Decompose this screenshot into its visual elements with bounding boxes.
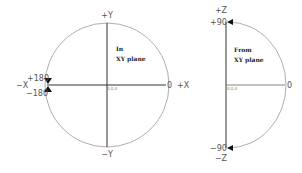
diagram-title-line2: XY plane bbox=[116, 55, 146, 63]
minus-z-label: −Z bbox=[215, 154, 228, 163]
origin-label: 0,0,0 bbox=[227, 86, 238, 91]
origin-label: 0,0,0 bbox=[107, 86, 118, 91]
diagram-title-line1: In bbox=[116, 45, 124, 52]
zero-angle-label: 0 bbox=[287, 81, 292, 90]
minus-y-label: −Y bbox=[101, 150, 113, 159]
minus-90-arrow-icon bbox=[227, 145, 233, 151]
xy-plane-diagram: +Y −Y −X +X 0 +180 −180 0,0,0 In XY plan… bbox=[16, 11, 190, 159]
plus-y-label: +Y bbox=[101, 11, 113, 20]
plus-x-label: +X bbox=[177, 81, 190, 90]
zero-angle-label: 0 bbox=[167, 81, 172, 90]
plus-90-arrow-icon bbox=[227, 19, 233, 25]
plus-90-label: +90 bbox=[210, 18, 227, 27]
diagram-title-line2: XY plane bbox=[234, 56, 264, 64]
minus-180-label: −180 bbox=[26, 89, 48, 98]
plus-z-label: +Z bbox=[215, 6, 228, 15]
angle-diagrams: +Y −Y −X +X 0 +180 −180 0,0,0 In XY plan… bbox=[0, 0, 302, 173]
minus-90-label: −90 bbox=[210, 144, 227, 153]
from-xy-plane-diagram: +Z +90 −90 −Z 0 0,0,0 From XY plane bbox=[210, 6, 292, 163]
diagram-title-line1: From bbox=[234, 46, 252, 53]
plus-180-label: +180 bbox=[27, 74, 49, 83]
